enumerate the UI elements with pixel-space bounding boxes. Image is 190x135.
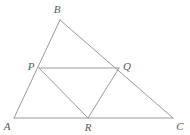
vertex-label-R: R <box>85 122 92 133</box>
vertex-label-A: A <box>4 121 11 132</box>
vertex-label-P: P <box>28 61 35 72</box>
segment-BC <box>60 20 173 118</box>
segment-AB <box>14 20 60 118</box>
segment-PR <box>39 68 88 118</box>
segments-group <box>14 20 173 118</box>
vertex-label-Q: Q <box>123 61 131 72</box>
geometry-diagram: A B C P Q R <box>0 0 190 135</box>
segment-QR <box>88 68 119 118</box>
vertex-label-C: C <box>176 121 183 132</box>
vertex-label-B: B <box>54 4 61 15</box>
